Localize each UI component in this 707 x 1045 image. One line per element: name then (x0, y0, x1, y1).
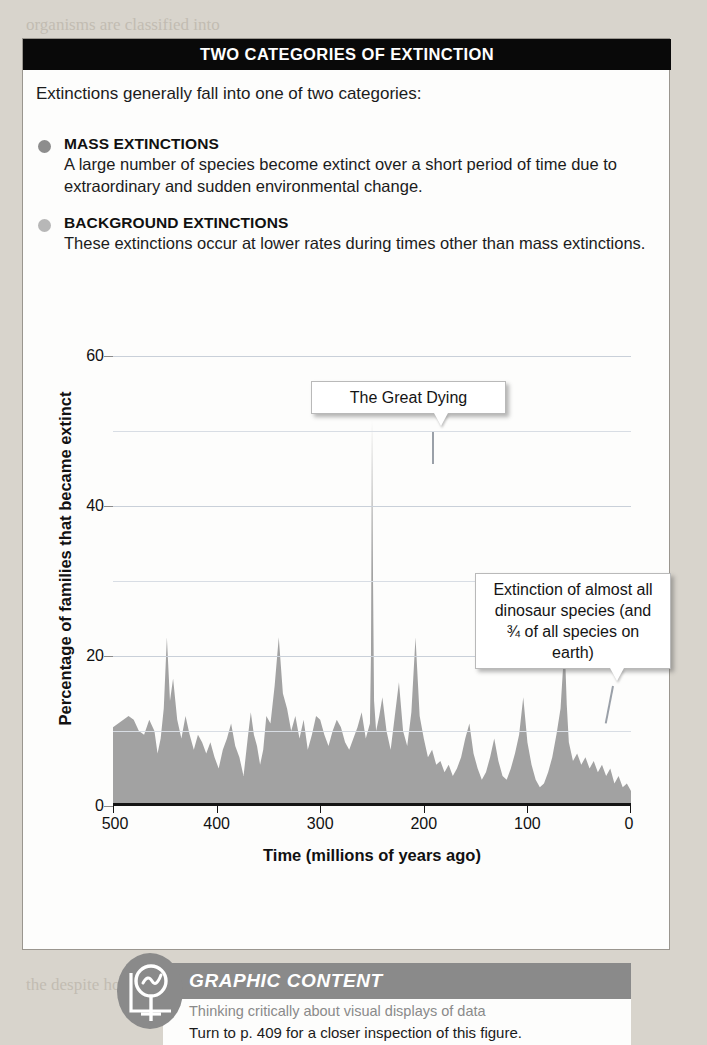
chart-y-tick-label: 20 (86, 647, 104, 665)
magnifier-chart-icon (115, 951, 185, 1031)
chart-x-tick-label: 0 (625, 815, 634, 833)
chart-x-tick-mark (527, 806, 528, 813)
callout-tail-icon (434, 413, 448, 426)
chart-gridline-minor (113, 731, 631, 732)
graphic-content-turn-to: Turn to p. 409 for a closer inspection o… (189, 1022, 631, 1043)
chart-x-tick-mark (320, 806, 321, 813)
bullet-dot-icon (38, 140, 51, 153)
chart-x-tick-label: 200 (410, 815, 437, 833)
figure-card: TWO CATEGORIES OF EXTINCTION Extinctions… (22, 38, 670, 950)
list-item-background-extinctions: BACKGROUND EXTINCTIONS These extinctions… (36, 214, 646, 255)
list-item-heading: BACKGROUND EXTINCTIONS (64, 214, 646, 232)
chart-gridline-major (113, 506, 631, 507)
chart-gridline-minor (113, 431, 631, 432)
chart-y-tick-mark (104, 806, 113, 807)
chart-y-tick-label: 40 (86, 497, 104, 515)
chart-x-tick-label: 500 (102, 815, 129, 833)
graphic-content-body: Thinking critically about visual display… (163, 999, 631, 1045)
list-item-mass-extinctions: MASS EXTINCTIONS A large number of speci… (36, 135, 646, 197)
chart-x-axis-line (113, 803, 631, 806)
chart-x-tick-mark (424, 806, 425, 813)
chart-y-tick-mark (104, 506, 113, 507)
list-item-heading: MASS EXTINCTIONS (64, 135, 646, 153)
callout-text: The Great Dying (350, 389, 467, 406)
figure-intro-text: Extinctions generally fall into one of t… (36, 84, 636, 104)
callout-text: Extinction of almost all dinosaur specie… (493, 581, 652, 661)
chart-gridline-major (113, 356, 631, 357)
callout-tail-icon (610, 668, 624, 681)
chart-x-tick-label: 300 (307, 815, 334, 833)
chart-y-tick-mark (104, 656, 113, 657)
graphic-content-banner: GRAPHIC CONTENT Thinking critically abou… (115, 951, 631, 1043)
list-item-body: A large number of species become extinct… (64, 154, 646, 197)
graphic-content-subtitle: Thinking critically about visual display… (189, 1001, 631, 1022)
callout-dinosaur-extinction: Extinction of almost all dinosaur specie… (475, 573, 671, 669)
graphic-content-label: GRAPHIC CONTENT (163, 963, 631, 999)
list-item-body: These extinctions occur at lower rates d… (64, 233, 646, 255)
extinction-area-chart: Percentage of families that became extin… (23, 334, 671, 904)
chart-x-axis-label: Time (millions of years ago) (113, 846, 631, 865)
chart-x-tick-label: 100 (514, 815, 541, 833)
categories-list: MASS EXTINCTIONS A large number of speci… (36, 135, 646, 272)
figure-title-bar: TWO CATEGORIES OF EXTINCTION (23, 39, 671, 70)
callout-leader-line (432, 432, 434, 464)
bullet-dot-icon (38, 219, 51, 232)
chart-x-tick-mark (113, 806, 114, 813)
callout-great-dying: The Great Dying (311, 381, 506, 414)
chart-x-tick-mark (630, 806, 631, 813)
chart-y-axis-label: Percentage of families that became extin… (56, 369, 75, 749)
chart-y-tick-mark (104, 356, 113, 357)
figure-title: TWO CATEGORIES OF EXTINCTION (23, 39, 671, 70)
chart-x-tick-mark (217, 806, 218, 813)
chart-x-tick-label: 400 (203, 815, 230, 833)
graphic-content-bar: GRAPHIC CONTENT (163, 963, 631, 999)
chart-y-tick-label: 0 (95, 797, 104, 815)
chart-y-tick-label: 60 (86, 347, 104, 365)
